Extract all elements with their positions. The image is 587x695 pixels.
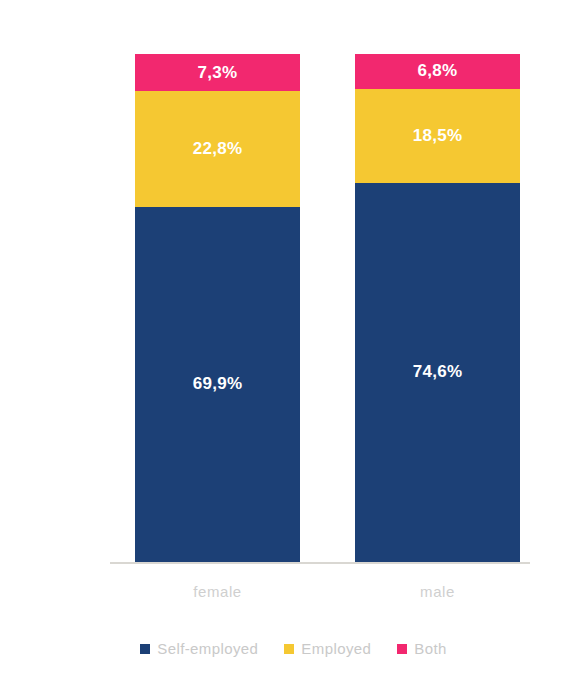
segment-label-male-self-employed: 74,6% [413, 362, 463, 382]
legend-item-employed[interactable]: Employed [284, 640, 371, 657]
legend-item-both[interactable]: Both [397, 640, 446, 657]
segment-label-female-both: 7,3% [198, 63, 238, 83]
segment-label-male-employed: 18,5% [413, 126, 463, 146]
legend-swatch-icon-both [397, 644, 407, 654]
segment-label-male-both: 6,8% [418, 61, 458, 81]
segment-label-female-self-employed: 69,9% [193, 374, 243, 394]
legend-label-employed: Employed [301, 640, 371, 657]
stacked-bar-chart: 100% 75% 50% 25% 0% 7,3% 22,8% 69,9% [0, 0, 587, 695]
category-label-male: male [355, 583, 520, 600]
legend-label-both: Both [414, 640, 446, 657]
legend-swatch-icon-self-employed [140, 644, 150, 654]
segment-female-both[interactable]: 7,3% [135, 54, 300, 91]
legend-label-self-employed: Self-employed [157, 640, 258, 657]
segment-female-self-employed[interactable]: 69,9% [135, 207, 300, 562]
legend: Self-employed Employed Both [0, 640, 587, 657]
legend-item-self-employed[interactable]: Self-employed [140, 640, 258, 657]
segment-male-employed[interactable]: 18,5% [355, 89, 520, 183]
x-axis-line [110, 562, 530, 564]
legend-swatch-icon-employed [284, 644, 294, 654]
segment-male-self-employed[interactable]: 74,6% [355, 183, 520, 562]
bar-female[interactable]: 7,3% 22,8% 69,9% [135, 54, 300, 562]
bar-male[interactable]: 6,8% 18,5% 74,6% [355, 54, 520, 562]
segment-label-female-employed: 22,8% [193, 139, 243, 159]
segment-female-employed[interactable]: 22,8% [135, 91, 300, 207]
category-label-female: female [135, 583, 300, 600]
segment-male-both[interactable]: 6,8% [355, 54, 520, 89]
plot-area: 7,3% 22,8% 69,9% 6,8% 18,5% 74,6% [135, 54, 520, 562]
